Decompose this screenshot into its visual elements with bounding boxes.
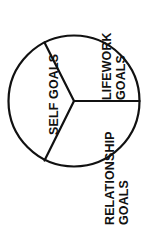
segment-label-self-goals: SELF GOALS	[47, 54, 61, 135]
segment-label-relationship-goals-line2: GOALS	[117, 131, 131, 225]
segment-label-relationship-goals: RELATIONSHIP GOALS	[103, 131, 131, 225]
segment-label-lifework-goals: LIFEWORK GOALS	[100, 32, 128, 100]
segment-label-relationship-goals-line1: RELATIONSHIP	[103, 131, 117, 225]
segment-label-lifework-goals-line1: LIFEWORK	[100, 32, 114, 100]
segment-label-lifework-goals-line2: GOALS	[114, 32, 128, 100]
segment-label-self-goals-line1: SELF GOALS	[47, 54, 61, 135]
pie-chart-diagram: LIFEWORK GOALS SELF GOALS RELATIONSHIP G…	[0, 0, 152, 234]
